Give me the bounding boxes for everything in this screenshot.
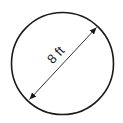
diameter-label: 8 ft xyxy=(44,43,68,67)
circle-diagram: 8 ft xyxy=(0,0,123,123)
diameter-line xyxy=(30,28,97,100)
